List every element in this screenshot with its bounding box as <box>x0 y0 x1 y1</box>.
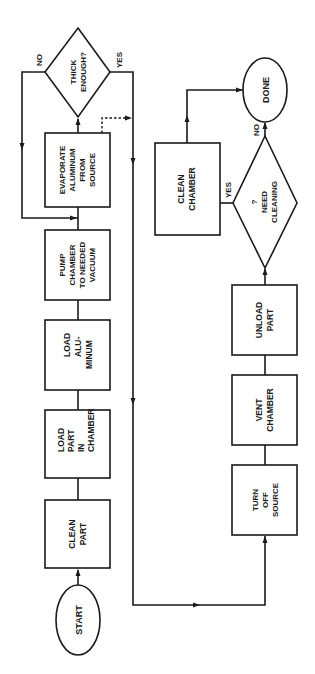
node-pump-line1: PUMP <box>58 253 67 277</box>
edge-label-thick-yes: YES <box>115 51 124 68</box>
arrowhead-icon <box>125 116 132 121</box>
node-clean-chamber-line2: CHAMBER <box>187 167 197 210</box>
node-unload-line2: PART <box>265 308 275 331</box>
node-load-part-line1: LOAD <box>56 428 66 452</box>
node-turnoff-line1: TURN <box>251 489 260 511</box>
node-start: START <box>56 585 100 655</box>
node-turnoff-line3: SOURCE <box>271 482 280 517</box>
arrowhead-icon <box>193 603 200 608</box>
arrowhead-icon <box>185 115 190 122</box>
node-turn-off-source: TURN OFF SOURCE <box>232 465 297 535</box>
node-vent-chamber: VENT CHAMBER <box>232 375 297 445</box>
node-evaporate-line1: EVAPORATE <box>58 145 67 194</box>
node-load-part-line3: IN <box>76 444 86 453</box>
node-unload-part: UNLOAD PART <box>232 285 297 355</box>
arrowhead-icon <box>263 536 268 543</box>
node-done-label: DONE <box>261 77 271 103</box>
node-unload-line1: UNLOAD <box>254 302 264 338</box>
node-load-part-line4: CHAMBER <box>86 409 96 452</box>
node-load-part-line2: PART <box>66 429 76 452</box>
arrowhead-icon <box>131 398 136 405</box>
arrowhead-icon <box>20 143 25 150</box>
node-vent-line2: CHAMBER <box>265 388 275 431</box>
node-clean-chamber: CLEAN CHAMBER <box>155 143 220 235</box>
node-clean-part: CLEAN PART <box>45 500 110 568</box>
arrowhead-icon <box>76 118 81 125</box>
arrowhead-icon <box>236 88 243 93</box>
node-clean-part-line2: PART <box>78 522 88 545</box>
node-evaporate: EVAPORATE ALUMINUM FROM SOURCE <box>45 133 110 207</box>
node-evaporate-line4: SOURCE <box>88 152 97 187</box>
node-need-cleaning-line2: NEED <box>260 191 269 213</box>
node-vent-line1: VENT <box>254 398 264 421</box>
node-need-cleaning-line1: ? <box>250 199 259 204</box>
node-thick-enough: THICK ENOUGH? <box>45 28 110 117</box>
node-load-al-line3: MINUM <box>84 340 94 369</box>
node-load-aluminum: LOAD ALU- MINUM <box>45 320 110 390</box>
node-pump-chamber: PUMP CHAMBER TO NEEDED VACUUM <box>45 230 110 300</box>
node-pump-line3: TO NEEDED <box>78 242 87 289</box>
node-turnoff-line2: OFF <box>261 492 270 508</box>
edge-evaporate-dashed <box>102 118 130 133</box>
node-need-cleaning-line3: CLEANING <box>270 181 279 223</box>
arrowhead-icon <box>70 216 77 221</box>
edge-label-clean-yes: YES <box>224 181 233 198</box>
edge-label-clean-no: NO <box>252 124 261 136</box>
node-done: DONE <box>243 58 287 122</box>
arrowhead-icon <box>76 569 81 576</box>
flowchart-diagram: START CLEAN PART LOAD PART IN CHAMBER LO… <box>0 0 315 674</box>
arrowhead-icon <box>131 158 136 165</box>
node-start-label: START <box>74 605 84 635</box>
node-clean-part-line1: CLEAN <box>67 519 77 548</box>
edge-label-thick-no: NO <box>35 54 44 66</box>
node-pump-line4: VACUUM <box>88 247 97 282</box>
node-clean-chamber-line1: CLEAN <box>176 174 186 203</box>
node-thick-line1: THICK <box>69 60 78 85</box>
node-pump-line2: CHAMBER <box>68 244 77 285</box>
edge-clean-chamber-done <box>187 90 243 143</box>
node-evaporate-line2: ALUMINUM <box>68 148 77 192</box>
node-need-cleaning: ? NEED CLEANING <box>233 136 297 268</box>
arrowhead-icon <box>263 122 268 129</box>
node-load-al-line2: ALU- <box>73 337 83 357</box>
node-evaporate-line3: FROM <box>78 158 87 182</box>
node-load-part: LOAD PART IN CHAMBER <box>45 409 110 478</box>
node-load-al-line1: LOAD <box>62 333 72 357</box>
node-thick-line2: ENOUGH? <box>79 52 88 92</box>
